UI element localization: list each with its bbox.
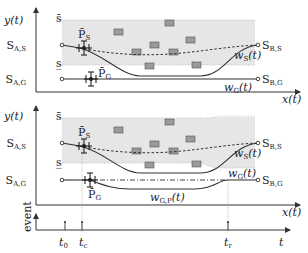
top-wg-label: wG(t): [224, 81, 252, 95]
path-wGP: [90, 180, 258, 189]
event-tick-tc: tc: [79, 221, 87, 250]
event-tick-t0: t0: [59, 221, 68, 250]
top-lower-bound-label: s̲: [56, 57, 62, 70]
uncertainty-marker-pg-icon: [84, 72, 98, 86]
top-ws-label: wS(t): [234, 49, 261, 63]
bottom-y-axis-label: y(t): [3, 110, 23, 123]
bottom-end-goal-label: SB,G: [262, 174, 283, 188]
start-sensor-point: [60, 141, 64, 145]
end-goal-point: [256, 77, 260, 81]
top-y-axis-label: y(t): [3, 14, 23, 27]
bottom-ws-label: wS(t): [234, 147, 261, 161]
end-goal-point: [256, 178, 260, 182]
bottom-lower-bound-label: s̲: [56, 156, 62, 169]
bottom-wgp-label: wG,P(t): [150, 191, 185, 205]
end-sensor-point: [256, 43, 260, 47]
top-x-axis-label: x(t): [282, 93, 301, 106]
bottom-start-sensor-label: SA,S: [6, 137, 26, 151]
top-start-sensor-label: SA,S: [6, 39, 26, 53]
diagram-canvas: y(t) x(t) s̄ s̲ SA,S SA,G SB,S SB,G P̄S …: [0, 0, 308, 253]
bottom-pg-label: P̄G: [88, 188, 101, 202]
bottom-panel: y(t) x(t) s̄ s̲ SA,S SA,G SB,S SB,G P̄S …: [3, 106, 301, 232]
svg-text:t0: t0: [59, 236, 68, 250]
uncertainty-marker-pg-icon: [82, 173, 98, 187]
svg-text:tr: tr: [224, 236, 232, 250]
bottom-upper-bound-label: s̄: [56, 110, 62, 123]
top-panel: y(t) x(t) s̄ s̲ SA,S SA,G SB,S SB,G P̄S …: [3, 8, 301, 106]
event-tick-tr: tr: [224, 221, 232, 250]
start-goal-point: [60, 77, 64, 81]
svg-text:tc: tc: [79, 236, 87, 250]
top-end-goal-label: SB,G: [262, 73, 283, 87]
event-t-label: t: [279, 236, 284, 249]
event-axis: event t t0 tc tr: [21, 201, 290, 250]
top-end-sensor-label: SB,S: [262, 39, 282, 53]
top-upper-bound-label: s̄: [56, 12, 62, 25]
bottom-end-sensor-label: SB,S: [262, 137, 282, 151]
trajectory-diagram: y(t) x(t) s̄ s̲ SA,S SA,G SB,S SB,G P̄S …: [0, 0, 308, 253]
bottom-start-goal-label: SA,G: [6, 174, 27, 188]
start-sensor-point: [60, 43, 64, 47]
top-start-goal-label: SA,G: [6, 73, 27, 87]
bottom-wg-label: wG(t): [228, 167, 256, 181]
top-pg-label: P̄G: [98, 67, 111, 81]
start-goal-point: [60, 178, 64, 182]
event-axis-label: event: [21, 201, 34, 232]
end-sensor-point: [256, 141, 260, 145]
bottom-x-axis-label: x(t): [282, 206, 301, 219]
